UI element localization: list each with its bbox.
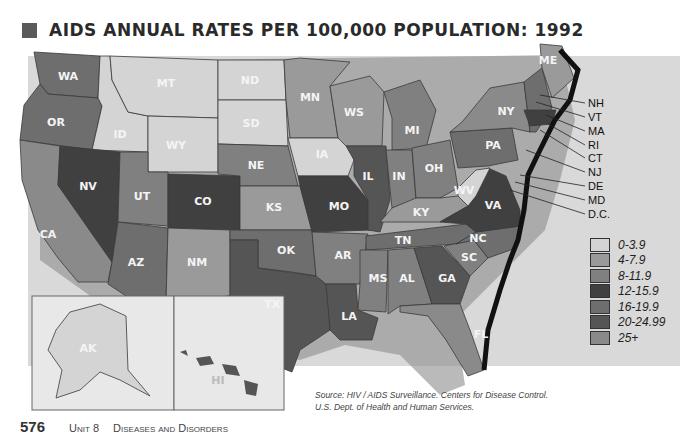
label-SD: SD xyxy=(242,117,259,130)
legend-label: 8-11.9 xyxy=(618,269,651,283)
legend-swatch xyxy=(590,315,610,329)
label-MN: MN xyxy=(300,91,320,104)
label-WA: WA xyxy=(58,70,79,83)
label-ME: ME xyxy=(539,54,557,67)
legend-item: 8-11.9 xyxy=(590,268,665,284)
label-KY: KY xyxy=(413,206,431,219)
page-footer: 576 Unit 8 Diseases and Disorders xyxy=(20,418,228,435)
label-ND: ND xyxy=(241,74,259,87)
legend-item: 12-15.9 xyxy=(590,284,665,300)
label-WS: WS xyxy=(344,106,364,119)
label-KS: KS xyxy=(266,201,283,214)
source-note: Source: HIV / AIDS Surveillance. Centers… xyxy=(315,389,548,413)
label-HI: HI xyxy=(211,374,224,387)
legend-item: 20-24.99 xyxy=(590,315,665,331)
label-AK: AK xyxy=(79,342,97,355)
label-AZ: AZ xyxy=(128,256,145,269)
legend-label: 0-3.9 xyxy=(618,238,645,252)
callout-NJ: NJ xyxy=(588,166,601,178)
label-VA: VA xyxy=(485,199,502,212)
label-NM: NM xyxy=(187,256,207,269)
legend-swatch xyxy=(590,300,610,314)
label-NE: NE xyxy=(248,159,265,172)
legend-item: 16-19.9 xyxy=(590,299,665,315)
label-TN: TN xyxy=(395,234,412,247)
label-OR: OR xyxy=(47,116,65,129)
legend-label: 4-7.9 xyxy=(618,253,645,267)
us-choropleth-map: WA OR CA ID MT WY NV UT CO AZ NM ND SD N… xyxy=(0,0,689,438)
label-ID: ID xyxy=(113,128,126,141)
legend-swatch xyxy=(590,253,610,267)
label-IN: IN xyxy=(392,170,405,183)
label-MS: MS xyxy=(369,272,388,285)
callout-DC: D.C. xyxy=(588,208,610,220)
callout-CT: CT xyxy=(588,152,603,164)
legend-swatch xyxy=(590,269,610,283)
legend-swatch xyxy=(590,238,610,252)
label-CO: CO xyxy=(194,195,211,208)
source-line-2: U.S. Dept. of Health and Human Services. xyxy=(315,401,548,413)
label-NV: NV xyxy=(79,180,97,193)
label-WV: WV xyxy=(454,184,475,197)
inset-hawaii xyxy=(174,296,284,410)
label-MI: MI xyxy=(404,124,419,137)
label-NY: NY xyxy=(497,105,515,118)
callout-VT: VT xyxy=(588,111,602,123)
label-SC: SC xyxy=(461,251,477,264)
legend-swatch xyxy=(590,284,610,298)
label-IA: IA xyxy=(316,148,329,161)
label-AL: AL xyxy=(399,272,415,285)
label-UT: UT xyxy=(134,190,151,203)
label-TX: TX xyxy=(264,298,281,311)
legend-label: 20-24.99 xyxy=(618,315,665,329)
unit-label: Unit 8 xyxy=(69,422,99,434)
legend-label: 12-15.9 xyxy=(618,284,659,298)
label-MO: MO xyxy=(329,200,349,213)
label-IL: IL xyxy=(362,170,373,183)
callout-MD: MD xyxy=(588,194,605,206)
legend-label: 25+ xyxy=(618,331,638,345)
label-GA: GA xyxy=(438,272,456,285)
label-PA: PA xyxy=(485,139,501,152)
label-OK: OK xyxy=(277,244,295,257)
label-AR: AR xyxy=(335,249,353,262)
callout-MA: MA xyxy=(588,125,605,137)
label-CA: CA xyxy=(40,228,57,241)
legend-swatch xyxy=(590,331,610,345)
callout-RI: RI xyxy=(588,139,599,151)
legend-item: 25+ xyxy=(590,330,665,346)
source-line-1: Source: HIV / AIDS Surveillance. Centers… xyxy=(315,389,548,401)
label-LA: LA xyxy=(341,310,357,323)
legend-item: 4-7.9 xyxy=(590,253,665,269)
label-OH: OH xyxy=(425,162,444,175)
page-number: 576 xyxy=(20,418,45,435)
legend-item: 0-3.9 xyxy=(590,237,665,253)
map-legend: 0-3.9 4-7.9 8-11.9 12-15.9 16-19.9 20-24… xyxy=(590,237,665,346)
callout-DE: DE xyxy=(588,180,603,192)
label-FL: FL xyxy=(474,328,489,341)
label-MT: MT xyxy=(157,77,176,90)
callout-NH: NH xyxy=(588,97,604,109)
legend-label: 16-19.9 xyxy=(618,300,659,314)
section-label: Diseases and Disorders xyxy=(113,422,228,434)
label-NC: NC xyxy=(469,232,486,245)
label-WY: WY xyxy=(166,139,187,152)
state-PA[interactable] xyxy=(450,128,518,168)
